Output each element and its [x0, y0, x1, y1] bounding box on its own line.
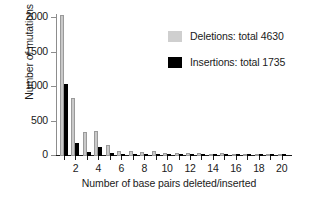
legend-label-insertions: Insertions: total 1735 — [190, 56, 285, 68]
y-tick: 2000 — [51, 17, 56, 18]
y-tick: 0 — [51, 155, 56, 156]
x-tick — [133, 156, 134, 160]
y-tick-label: 1000 — [25, 79, 48, 91]
x-tick — [167, 156, 168, 160]
y-tick: 500 — [51, 121, 56, 122]
x-tick — [247, 156, 248, 160]
chart-legend: Deletions: total 4630 Insertions: total … — [168, 30, 285, 82]
x-tick — [110, 156, 111, 160]
x-tick-label: 4 — [96, 162, 102, 174]
x-tick — [282, 156, 283, 160]
y-tick-label: 1500 — [25, 45, 48, 57]
x-tick — [213, 156, 214, 160]
x-tick — [64, 156, 65, 160]
x-tick-label: 10 — [161, 162, 172, 174]
bar — [64, 84, 68, 156]
legend-item-insertions: Insertions: total 1735 — [168, 56, 285, 68]
x-tick — [179, 156, 180, 160]
x-tick — [236, 156, 237, 160]
x-tick — [201, 156, 202, 160]
x-tick-label: 6 — [118, 162, 124, 174]
x-tick — [98, 156, 99, 160]
legend-item-deletions: Deletions: total 4630 — [168, 30, 285, 42]
legend-label-deletions: Deletions: total 4630 — [190, 30, 284, 42]
y-tick-label: 0 — [42, 148, 48, 160]
x-tick — [224, 156, 225, 160]
x-tick — [270, 156, 271, 160]
y-tick: 1000 — [51, 86, 56, 87]
x-axis-title: Number of base pairs deleted/inserted — [40, 177, 298, 189]
x-tick-label: 16 — [230, 162, 241, 174]
x-tick — [144, 156, 145, 160]
x-tick — [121, 156, 122, 160]
x-tick-label: 18 — [253, 162, 264, 174]
bar — [98, 147, 102, 156]
x-tick — [156, 156, 157, 160]
y-tick-label: 500 — [31, 114, 48, 126]
x-tick — [87, 156, 88, 160]
insertions-swatch-icon — [168, 57, 182, 68]
y-tick: 1500 — [51, 52, 56, 53]
x-tick — [75, 156, 76, 160]
deletions-swatch-icon — [168, 31, 182, 42]
y-tick-label: 2000 — [25, 10, 48, 22]
mutation-size-distribution-chart: Number of mutations Number of base pairs… — [0, 0, 314, 199]
bar — [75, 143, 79, 156]
x-tick-label: 12 — [184, 162, 195, 174]
x-tick — [190, 156, 191, 160]
x-tick-label: 20 — [276, 162, 287, 174]
x-tick-label: 14 — [207, 162, 218, 174]
x-tick — [259, 156, 260, 160]
x-tick-label: 8 — [141, 162, 147, 174]
x-tick-label: 2 — [73, 162, 79, 174]
